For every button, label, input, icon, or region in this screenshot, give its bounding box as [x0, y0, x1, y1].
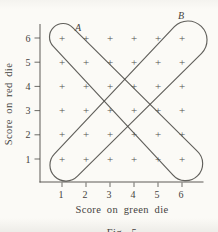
outcome-mark: +: [59, 153, 65, 165]
y-axis-title: Score on red die: [3, 63, 14, 145]
event-a-label: A: [74, 22, 82, 33]
outcome-mark: +: [155, 80, 161, 92]
outcome-mark: +: [155, 128, 161, 140]
x-tick-label: 1: [59, 189, 64, 200]
figure-page: 123456123456 +++++++++++++++++++++++++++…: [0, 0, 218, 232]
outcome-mark: +: [107, 153, 113, 165]
outcome-mark: +: [107, 32, 113, 44]
outcome-mark: +: [179, 32, 185, 44]
x-tick-label: 3: [107, 189, 112, 200]
outcome-mark: +: [83, 56, 89, 68]
y-tick-label: 4: [26, 81, 31, 92]
x-tick-label: 6: [179, 189, 184, 200]
outcome-mark: +: [107, 80, 113, 92]
outcome-mark: +: [59, 80, 65, 92]
x-axis-title: Score on green die: [75, 204, 168, 215]
outcome-mark: +: [131, 104, 137, 116]
x-tick-label: 5: [155, 189, 160, 200]
outcome-mark: +: [155, 56, 161, 68]
figure-caption: Fig. 5: [107, 227, 138, 232]
y-tick-label: 3: [26, 105, 31, 116]
outcome-mark: +: [83, 128, 89, 140]
y-tick-label: 2: [26, 129, 31, 140]
outcome-mark: +: [59, 104, 65, 116]
event-b-label: B: [178, 10, 184, 21]
outcome-mark: +: [83, 104, 89, 116]
outcome-mark: +: [83, 153, 89, 165]
outcome-mark: +: [179, 153, 185, 165]
outcome-mark: +: [107, 128, 113, 140]
y-tick-label: 1: [26, 154, 31, 165]
outcome-mark: +: [179, 56, 185, 68]
outcome-mark: +: [83, 32, 89, 44]
outcome-mark: +: [131, 32, 137, 44]
y-tick-label: 6: [26, 33, 31, 44]
y-tick-label: 5: [26, 57, 31, 68]
figure-canvas: 123456123456 +++++++++++++++++++++++++++…: [0, 0, 218, 232]
outcome-mark: +: [179, 80, 185, 92]
x-tick-label: 2: [83, 189, 88, 200]
outcome-mark: +: [131, 56, 137, 68]
x-tick-label: 4: [131, 189, 136, 200]
outcome-mark: +: [179, 104, 185, 116]
outcome-mark: +: [59, 32, 65, 44]
outcome-marks: ++++++++++++++++++++++++++++++++++++: [59, 32, 185, 165]
outcome-mark: +: [59, 128, 65, 140]
outcome-mark: +: [131, 153, 137, 165]
